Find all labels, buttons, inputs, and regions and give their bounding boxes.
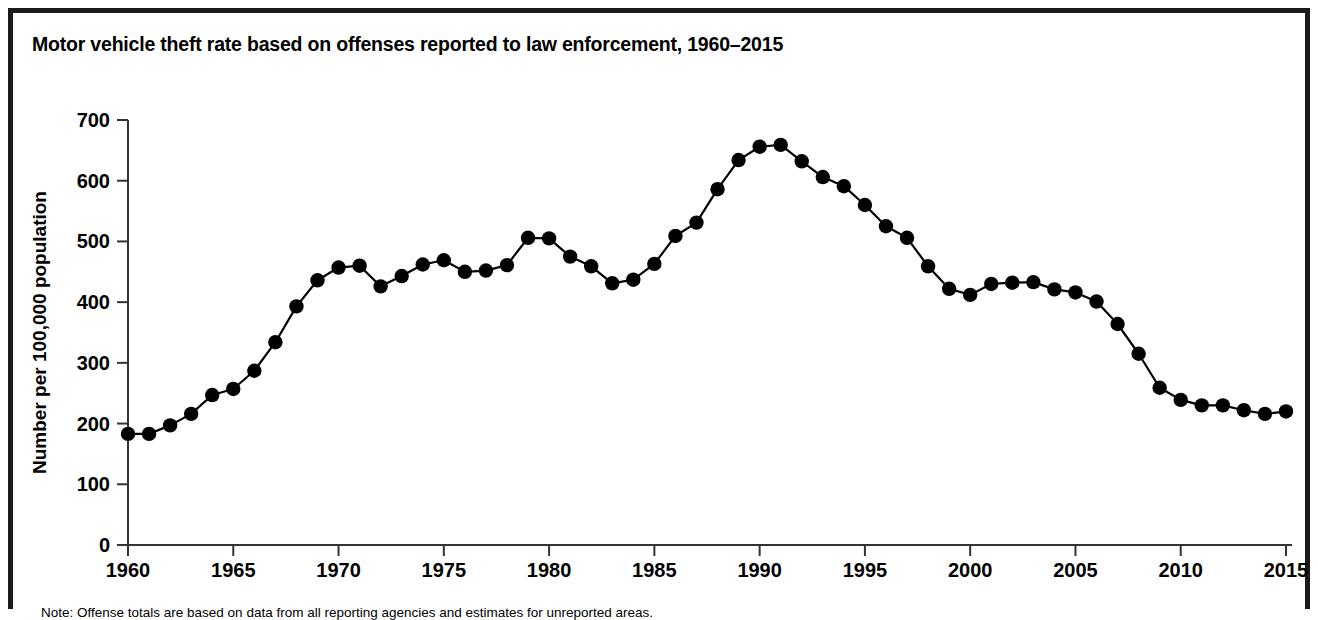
- y-axis-tick-label: 400: [77, 291, 110, 313]
- x-axis-tick-label: 2010: [1158, 559, 1203, 581]
- y-axis-title: Number per 100,000 population: [29, 191, 50, 474]
- y-axis-tick-label: 700: [77, 109, 110, 131]
- x-axis-tick-label: 2015: [1264, 559, 1309, 581]
- x-axis-tick-label: 1980: [527, 559, 572, 581]
- data-point: [900, 231, 914, 245]
- data-point: [437, 253, 451, 267]
- data-point: [142, 427, 156, 441]
- y-axis-tick-label: 100: [77, 473, 110, 495]
- data-point: [1131, 347, 1145, 361]
- x-axis: 1960196519701975198019851990199520002005…: [106, 545, 1309, 581]
- data-point: [416, 257, 430, 271]
- data-point: [1026, 275, 1040, 289]
- x-axis-tick-label: 1985: [632, 559, 677, 581]
- data-point: [858, 198, 872, 212]
- data-point: [521, 231, 535, 245]
- data-point: [268, 335, 282, 349]
- data-point: [1195, 398, 1209, 412]
- data-point: [395, 269, 409, 283]
- data-point: [310, 273, 324, 287]
- data-point: [542, 231, 556, 245]
- data-point: [963, 288, 977, 302]
- data-point: [773, 138, 787, 152]
- data-point: [121, 427, 135, 441]
- data-point: [1005, 276, 1019, 290]
- data-point: [647, 257, 661, 271]
- data-point: [984, 277, 998, 291]
- data-point: [352, 259, 366, 273]
- data-point: [668, 229, 682, 243]
- data-series-motor-vehicle-theft-rate: [121, 138, 1293, 441]
- data-point: [373, 279, 387, 293]
- data-point: [626, 272, 640, 286]
- y-axis-tick-label: 500: [77, 230, 110, 252]
- data-point: [921, 259, 935, 273]
- data-point: [226, 382, 240, 396]
- series-line: [128, 145, 1286, 434]
- x-axis-tick-label: 1970: [316, 559, 361, 581]
- data-point: [563, 249, 577, 263]
- data-point: [816, 170, 830, 184]
- data-point: [710, 182, 724, 196]
- x-axis-tick-label: 1965: [211, 559, 256, 581]
- x-axis-tick-label: 2000: [948, 559, 993, 581]
- data-point: [479, 263, 493, 277]
- data-point: [1047, 282, 1061, 296]
- data-point: [1174, 393, 1188, 407]
- data-point: [942, 282, 956, 296]
- data-point: [289, 299, 303, 313]
- x-axis-tick-label: 2005: [1053, 559, 1098, 581]
- data-point: [458, 265, 472, 279]
- data-point: [1216, 398, 1230, 412]
- data-point: [1068, 285, 1082, 299]
- data-point: [247, 364, 261, 378]
- data-point: [184, 407, 198, 421]
- data-point: [500, 258, 514, 272]
- y-axis-tick-label: 200: [77, 413, 110, 435]
- y-axis-tick-label: 600: [77, 170, 110, 192]
- x-axis-tick-label: 1990: [737, 559, 782, 581]
- y-axis-tick-label: 300: [77, 352, 110, 374]
- data-point: [1152, 381, 1166, 395]
- x-axis-tick-label: 1975: [422, 559, 467, 581]
- data-point: [837, 179, 851, 193]
- data-point: [1110, 317, 1124, 331]
- data-point: [605, 276, 619, 290]
- data-point: [731, 153, 745, 167]
- y-axis-title-label: Number per 100,000 population: [29, 191, 50, 474]
- data-point: [1089, 294, 1103, 308]
- data-point: [1237, 403, 1251, 417]
- data-point: [795, 154, 809, 168]
- y-axis-tick-label: 0: [99, 534, 110, 556]
- data-point: [879, 219, 893, 233]
- data-point: [1279, 404, 1293, 418]
- data-point: [752, 140, 766, 154]
- data-point: [584, 259, 598, 273]
- data-point: [1258, 407, 1272, 421]
- data-point: [689, 215, 703, 229]
- data-point: [163, 418, 177, 432]
- data-point: [205, 388, 219, 402]
- x-axis-tick-label: 1995: [843, 559, 888, 581]
- data-point: [331, 260, 345, 274]
- y-axis: 0100200300400500600700: [77, 109, 128, 556]
- x-axis-tick-label: 1960: [106, 559, 151, 581]
